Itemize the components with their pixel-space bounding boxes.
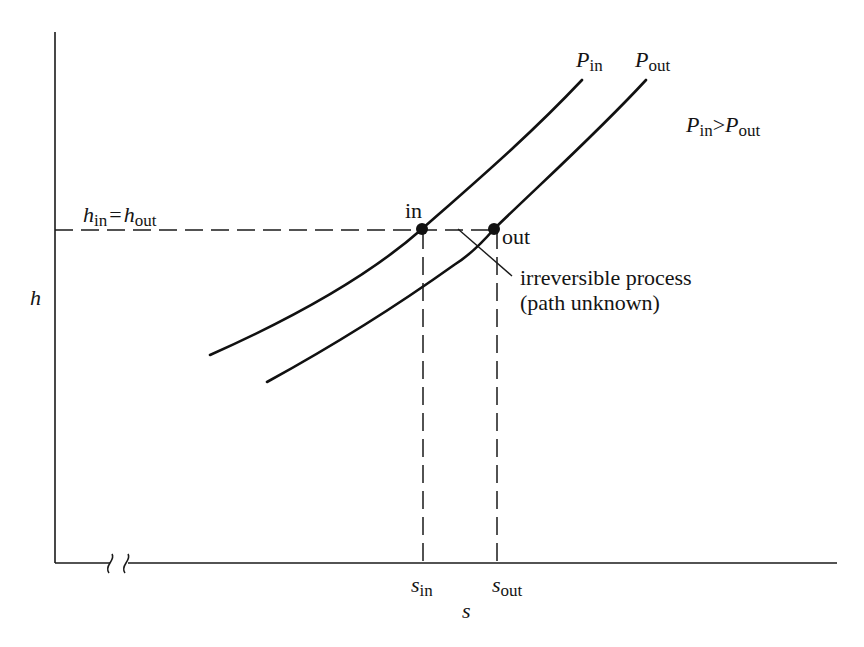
y-axis-label: h	[30, 285, 41, 310]
state-point-out	[488, 223, 500, 235]
x-axis-label: s	[462, 598, 471, 623]
x-tick-s-in: sin	[411, 572, 433, 600]
x-tick-s-out: sout	[492, 572, 523, 600]
annotation-line-2: (path unknown)	[520, 290, 660, 315]
axis-break-icon	[124, 554, 129, 573]
annotation-line-1: irreversible process	[520, 265, 692, 290]
h-s-diagram: h hin=hout Pin Pout Pin>Pout in out irre…	[0, 0, 864, 647]
point-label-out: out	[502, 224, 530, 249]
isobar-curve-p-out	[267, 80, 646, 382]
curve-label-p-out: Pout	[634, 47, 670, 75]
h-equality-label: hin=hout	[83, 202, 157, 230]
point-label-in: in	[405, 198, 422, 223]
state-point-in	[416, 223, 428, 235]
pressure-condition-label: Pin>Pout	[685, 112, 761, 140]
curve-label-p-in: Pin	[575, 47, 603, 75]
